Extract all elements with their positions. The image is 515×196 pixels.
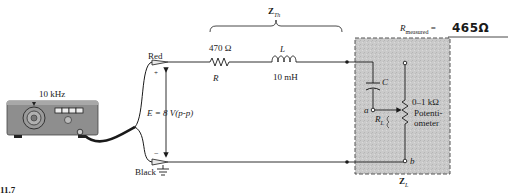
figure-caption-fragment: 11.7: [0, 186, 15, 195]
inductor-l: [272, 56, 296, 62]
zl-subscript: L: [405, 182, 408, 188]
node-a-label: a: [364, 106, 369, 115]
measurement-label: Rmeasured =: [400, 24, 436, 35]
measurement-equals: =: [431, 23, 436, 33]
source-voltage-label: E = 8 V(p-p): [147, 109, 193, 118]
function-generator: [7, 101, 98, 138]
rl-subscript: L: [381, 120, 384, 126]
inductor-symbol: L: [280, 45, 285, 54]
pot-name-line1: Potenti-: [414, 109, 443, 118]
frequency-label: 10 kHz: [39, 90, 65, 99]
ground-icon: [157, 165, 169, 175]
plus-sign: +: [154, 70, 158, 77]
junction-dot-bottom: [345, 160, 349, 164]
red-lead-label: Red: [148, 52, 163, 61]
node-b-label: b: [410, 157, 415, 166]
capacitor-symbol: C: [382, 78, 388, 87]
zth-label: ZTh: [268, 7, 280, 18]
measurement-subscript: measured: [406, 29, 429, 35]
black-lead-label: Black: [135, 168, 156, 177]
black-clip: [152, 159, 168, 165]
measured-value-handwritten: 465Ω: [452, 22, 489, 34]
top-wire: [168, 56, 373, 108]
pot-range-label: 0–1 kΩ: [412, 98, 439, 107]
inductor-value: 10 mH: [273, 73, 298, 82]
output-jack-icon: [77, 129, 83, 135]
zth-brace: [210, 20, 342, 32]
resistor-r: [210, 58, 229, 66]
minus-sign: −: [154, 150, 159, 158]
junction-dot-top: [345, 60, 349, 64]
pot-name-line2: ometer: [414, 119, 439, 128]
zl-label: ZL: [399, 177, 408, 188]
rl-label: RL: [375, 115, 384, 126]
amplitude-knob-icon: [65, 117, 72, 124]
resistor-value: 470 Ω: [209, 44, 231, 53]
zth-subscript: Th: [274, 12, 280, 18]
resistor-symbol: R: [213, 74, 219, 83]
